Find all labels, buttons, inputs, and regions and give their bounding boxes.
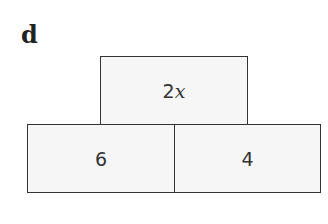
bottom-left-brick: 6 <box>27 124 175 193</box>
problem-label: d <box>21 20 38 49</box>
top-brick: 2x <box>100 56 248 125</box>
top-brick-variable: x <box>175 80 186 102</box>
bottom-right-brick: 4 <box>174 124 321 193</box>
bottom-right-value: 4 <box>241 148 253 170</box>
bottom-left-value: 6 <box>95 148 107 170</box>
top-brick-coefficient: 2 <box>163 80 175 102</box>
